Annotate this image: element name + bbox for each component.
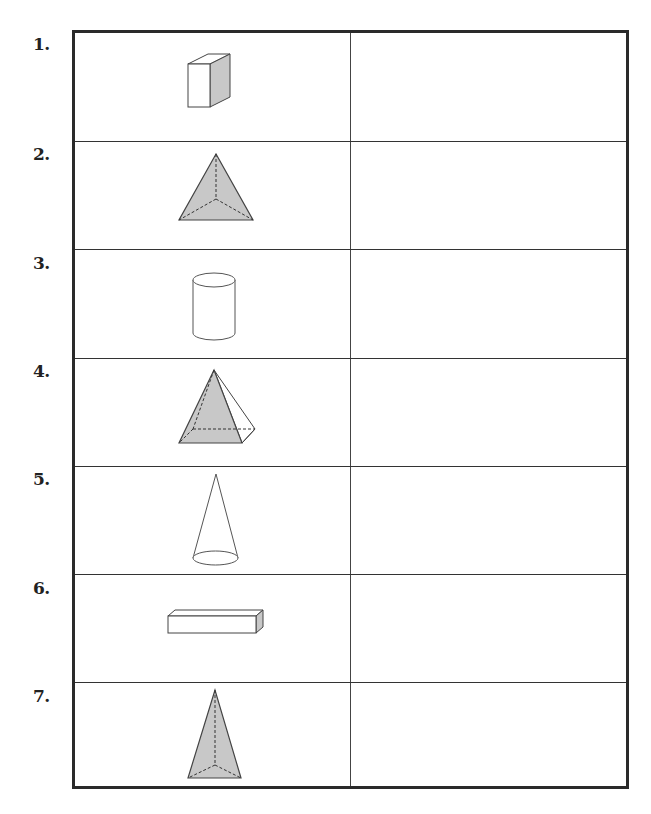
shape-cell <box>75 33 350 141</box>
answer-cell[interactable] <box>352 33 626 141</box>
triangular-pyramid-icon <box>75 142 350 250</box>
table-row <box>75 141 626 249</box>
tall-triangular-pyramid-icon <box>75 683 350 787</box>
row-number-1: 1. <box>33 34 50 54</box>
shape-cell <box>75 359 350 466</box>
shape-cell <box>75 250 350 358</box>
answer-cell[interactable] <box>352 359 626 466</box>
shape-cell <box>75 683 350 786</box>
shape-cell <box>75 142 350 249</box>
shapes-table <box>72 30 629 789</box>
table-row <box>75 682 626 786</box>
shape-cell <box>75 467 350 574</box>
cone-icon <box>75 467 350 575</box>
table-row <box>75 574 626 682</box>
cylinder-icon <box>75 250 350 359</box>
row-number-2: 2. <box>33 144 50 164</box>
shape-cell <box>75 575 350 682</box>
table-row <box>75 33 626 141</box>
row-number-3: 3. <box>33 253 50 273</box>
rectangular-prism-icon <box>75 575 350 683</box>
row-number-4: 4. <box>33 361 50 381</box>
answer-cell[interactable] <box>352 575 626 682</box>
table-row <box>75 466 626 574</box>
row-number-6: 6. <box>33 578 50 598</box>
square-pyramid-icon <box>75 359 350 467</box>
cube-icon <box>75 33 350 141</box>
answer-cell[interactable] <box>352 142 626 249</box>
row-number-7: 7. <box>33 686 50 706</box>
answer-cell[interactable] <box>352 467 626 574</box>
table-row <box>75 249 626 358</box>
row-number-5: 5. <box>33 469 50 489</box>
answer-cell[interactable] <box>352 683 626 786</box>
answer-cell[interactable] <box>352 250 626 358</box>
table-row <box>75 358 626 466</box>
